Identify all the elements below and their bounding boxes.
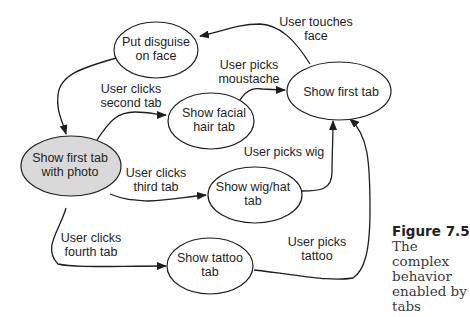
edge-label-wig: User picks wig — [244, 145, 325, 159]
node-label: on face — [135, 49, 176, 63]
node-label: Show wig/hat — [216, 180, 291, 194]
edge-photo-to-facial — [97, 112, 166, 140]
node-label: Show tattoo — [177, 251, 243, 265]
edge-label-fourth-tab: User clicks — [61, 231, 121, 245]
node-label: with photo — [41, 165, 99, 179]
edge-photo-to-wig — [110, 194, 206, 201]
node-disguise: Put disguise on face — [114, 22, 198, 78]
figure-caption-text: The complex behavior enabled by tabs — [392, 239, 470, 314]
edge-label-third-tab: User clicks — [126, 166, 186, 180]
node-label: Show first tab — [303, 85, 379, 99]
node-label: hair tab — [193, 120, 235, 134]
node-label: tab — [201, 265, 218, 279]
edge-label-third-tab: third tab — [133, 180, 178, 194]
figure-number: Figure 7.5 — [392, 224, 470, 239]
figure-caption: Figure 7.5 The complex behavior enabled … — [392, 224, 470, 314]
node-first-tab-with-photo: Show first tab with photo — [21, 136, 121, 196]
node-facial-hair: Show facial hair tab — [168, 93, 254, 149]
node-first-tab: Show first tab — [287, 62, 391, 120]
node-wig-hat: Show wig/hat tab — [208, 167, 302, 223]
node-tattoo: Show tattoo tab — [167, 238, 253, 294]
edge-label-moustache: moustache — [218, 72, 279, 86]
node-label: Put disguise — [122, 35, 190, 49]
node-label: Show first tab — [32, 151, 108, 165]
edge-label-second-tab: second tab — [100, 96, 161, 110]
edge-label-touches-face: face — [304, 29, 328, 43]
edge-label-fourth-tab: fourth tab — [65, 245, 118, 259]
edge-label-tattoo: User picks — [288, 235, 346, 249]
edge-label-second-tab: User clicks — [101, 82, 161, 96]
edge-facial-to-first — [240, 89, 285, 100]
edge-label-moustache: User picks — [220, 58, 278, 72]
node-label: Show facial — [182, 106, 246, 120]
edge-label-touches-face: User touches — [279, 15, 353, 29]
edge-label-tattoo: tattoo — [301, 249, 332, 263]
node-label: tab — [244, 194, 261, 208]
